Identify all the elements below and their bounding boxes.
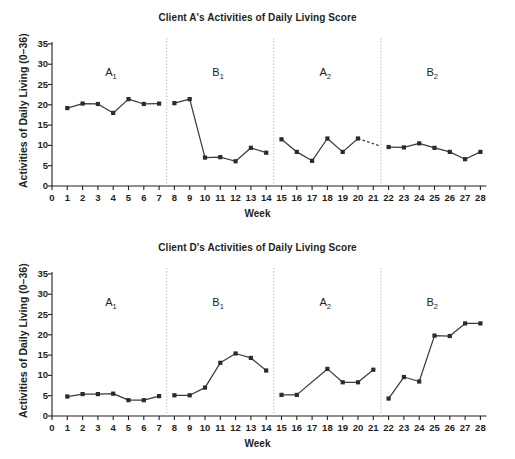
chart-panel-client-a: Client A's Activities of Daily Living Sc…: [0, 0, 515, 230]
plot-area-client-a: 05101520253035Activities of Daily Living…: [0, 0, 515, 229]
data-point: [387, 396, 391, 400]
data-point: [81, 101, 85, 105]
data-point: [387, 145, 391, 149]
x-tick-label: 28: [470, 192, 490, 203]
phase-label-B1: B1: [212, 296, 224, 311]
chart-panel-client-d: Client D's Activities of Daily Living Sc…: [0, 230, 515, 459]
data-point: [371, 368, 375, 372]
plot-area-client-d: 05101520253035Activities of Daily Living…: [0, 230, 515, 459]
data-point: [478, 321, 482, 325]
data-point: [203, 155, 207, 159]
data-point: [402, 375, 406, 379]
phase-label-B1: B1: [212, 66, 224, 81]
data-point: [432, 334, 436, 338]
phase-label-A1: A1: [105, 296, 117, 311]
data-point: [417, 141, 421, 145]
data-point: [325, 367, 329, 371]
data-point: [172, 101, 176, 105]
data-point: [218, 361, 222, 365]
data-point: [341, 380, 345, 384]
data-point: [188, 393, 192, 397]
phase-label-B2: B2: [427, 66, 439, 81]
data-point: [142, 102, 146, 106]
data-point: [463, 157, 467, 161]
data-point: [264, 368, 268, 372]
y-axis-title: Activities of Daily Living (0–36): [17, 33, 29, 188]
data-point: [295, 393, 299, 397]
data-point: [142, 398, 146, 402]
data-point: [417, 379, 421, 383]
data-point: [157, 394, 161, 398]
phase-label-A2: A2: [319, 66, 331, 81]
data-point: [203, 385, 207, 389]
x-axis-title: Week: [0, 208, 515, 219]
data-point: [432, 146, 436, 150]
data-point: [356, 136, 360, 140]
series-line-B1: [174, 99, 266, 161]
data-point: [172, 393, 176, 397]
data-point: [264, 151, 268, 155]
data-point: [310, 159, 314, 163]
x-axis-title: Week: [0, 438, 515, 449]
data-point: [249, 356, 253, 360]
data-point: [218, 155, 222, 159]
y-axis-title: Activities of Daily Living (0–36): [17, 263, 29, 418]
data-point: [448, 334, 452, 338]
data-point: [249, 146, 253, 150]
data-point: [341, 150, 345, 154]
data-point: [96, 102, 100, 106]
data-point: [448, 150, 452, 154]
data-point: [188, 97, 192, 101]
data-point: [325, 136, 329, 140]
data-point: [81, 392, 85, 396]
data-point: [295, 150, 299, 154]
data-point: [463, 321, 467, 325]
data-point: [402, 145, 406, 149]
phase-label-A1: A1: [105, 66, 117, 81]
data-point: [96, 392, 100, 396]
data-point: [65, 106, 69, 110]
data-point: [478, 150, 482, 154]
data-point: [126, 398, 130, 402]
series-trailing-dashed-A2: [358, 138, 379, 145]
data-point: [65, 394, 69, 398]
phase-label-A2: A2: [319, 296, 331, 311]
series-line-A2: [282, 139, 359, 161]
data-point: [234, 351, 238, 355]
data-point: [111, 111, 115, 115]
data-point: [111, 392, 115, 396]
data-point: [279, 137, 283, 141]
data-point: [279, 393, 283, 397]
data-point: [157, 101, 161, 105]
phase-label-B2: B2: [427, 296, 439, 311]
data-point: [356, 380, 360, 384]
x-tick-label: 28: [470, 422, 490, 433]
data-point: [234, 159, 238, 163]
data-point: [126, 97, 130, 101]
